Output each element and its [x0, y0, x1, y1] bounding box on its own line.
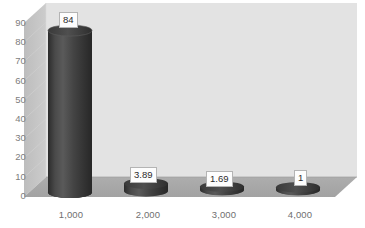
y-tick-10: 10	[2, 172, 26, 182]
y-tick-30: 30	[2, 133, 26, 143]
y-tick-70: 70	[2, 56, 26, 66]
y-tick-20: 20	[2, 152, 26, 162]
x-tick-4000: 4,000	[270, 209, 330, 220]
data-label-2000: 3.89	[130, 167, 157, 183]
x-tick-1000: 1,000	[41, 209, 101, 220]
y-tick-90: 90	[2, 18, 26, 28]
y-tick-50: 50	[2, 95, 26, 105]
y-axis: 90 80 70 60 50 40 30 20 10 0	[0, 0, 26, 228]
x-tick-3000: 3,000	[194, 209, 254, 220]
chart-3d-scene	[0, 0, 365, 228]
chart-container: 90 80 70 60 50 40 30 20 10 0 1,000 2,000…	[0, 0, 365, 228]
y-tick-80: 80	[2, 37, 26, 47]
y-tick-0: 0	[2, 191, 26, 201]
data-label-1000: 84	[59, 12, 78, 28]
data-label-4000: 1	[294, 170, 307, 186]
chart-back-wall	[46, 3, 357, 177]
bar-1000	[48, 25, 92, 198]
y-tick-40: 40	[2, 114, 26, 124]
y-tick-60: 60	[2, 76, 26, 86]
x-tick-2000: 2,000	[118, 209, 178, 220]
data-label-3000: 1.69	[206, 171, 233, 187]
